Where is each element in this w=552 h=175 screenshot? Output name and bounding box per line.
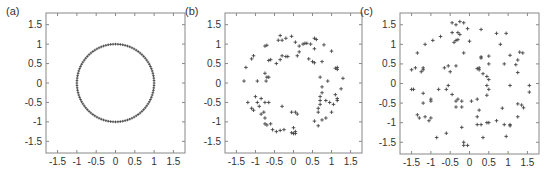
x-tick-label: 1	[329, 156, 335, 167]
x-tick-label: 0	[467, 157, 473, 168]
y-tick-label: 0.5	[207, 58, 221, 69]
x-tick-label: 0.5	[306, 156, 320, 167]
panel-c: (c)-1.5-1.5-1-1-0.5-0.5000.50.5111.51.5	[355, 0, 552, 175]
y-tick-label: 0.5	[382, 58, 396, 69]
x-tick-label: 0.5	[128, 156, 142, 167]
y-tick-label: -1.5	[25, 136, 43, 147]
x-tick-label: -1.5	[403, 157, 421, 168]
y-tick-label: 1.5	[207, 19, 221, 30]
y-tick-label: 0.5	[28, 58, 42, 69]
axes-frame	[46, 13, 185, 153]
x-tick-label: 1	[151, 156, 157, 167]
x-tick-label: -0.5	[442, 157, 460, 168]
panel-a: (a)-1.5-1.5-1-1-0.5-0.5000.50.5111.51.5	[0, 0, 190, 175]
axes-frame	[400, 13, 539, 154]
panel-label: (c)	[360, 5, 373, 17]
y-tick-label: 1.5	[382, 19, 396, 30]
y-tick-label: -1.5	[379, 137, 397, 148]
data-markers	[76, 43, 156, 123]
y-tick-label: -1	[387, 117, 396, 128]
x-tick-label: -1	[251, 156, 260, 167]
panel-b: (b)-1.5-1.5-1-1-0.5-0.5000.50.5111.51.5	[180, 0, 370, 175]
y-tick-label: -0.5	[379, 98, 397, 109]
y-tick-label: 1	[36, 39, 42, 50]
x-tick-label: -1.5	[228, 156, 246, 167]
x-tick-label: 1	[505, 157, 511, 168]
scatter-plot-c: (c)-1.5-1.5-1-1-0.5-0.5000.50.5111.51.5	[355, 0, 552, 175]
y-tick-label: -1	[212, 116, 221, 127]
y-tick-label: 1	[215, 39, 221, 50]
data-markers	[242, 34, 345, 136]
x-tick-label: 0	[291, 156, 297, 167]
y-tick-label: 1.5	[28, 19, 42, 30]
y-tick-label: -1	[33, 116, 42, 127]
panel-label: (b)	[185, 5, 198, 17]
panel-label: (a)	[6, 5, 19, 17]
y-tick-label: -1.5	[204, 136, 222, 147]
x-tick-label: 1.5	[520, 157, 534, 168]
y-tick-label: 1	[390, 39, 396, 50]
data-markers	[410, 20, 531, 147]
x-tick-label: -1	[72, 156, 81, 167]
x-tick-label: 0	[113, 156, 119, 167]
x-tick-label: -1	[426, 157, 435, 168]
x-tick-label: 1.5	[166, 156, 180, 167]
y-tick-label: 0	[215, 78, 221, 89]
y-tick-label: 0	[36, 78, 42, 89]
x-tick-label: -1.5	[49, 156, 67, 167]
x-tick-label: 0.5	[482, 157, 496, 168]
y-tick-label: -0.5	[25, 97, 43, 108]
scatter-plot-b: (b)-1.5-1.5-1-1-0.5-0.5000.50.5111.51.5	[180, 0, 370, 175]
y-tick-label: 0	[390, 78, 396, 89]
y-tick-label: -0.5	[204, 97, 222, 108]
scatter-plot-a: (a)-1.5-1.5-1-1-0.5-0.5000.50.5111.51.5	[0, 0, 190, 175]
x-tick-label: -0.5	[88, 156, 106, 167]
x-tick-label: -0.5	[266, 156, 284, 167]
